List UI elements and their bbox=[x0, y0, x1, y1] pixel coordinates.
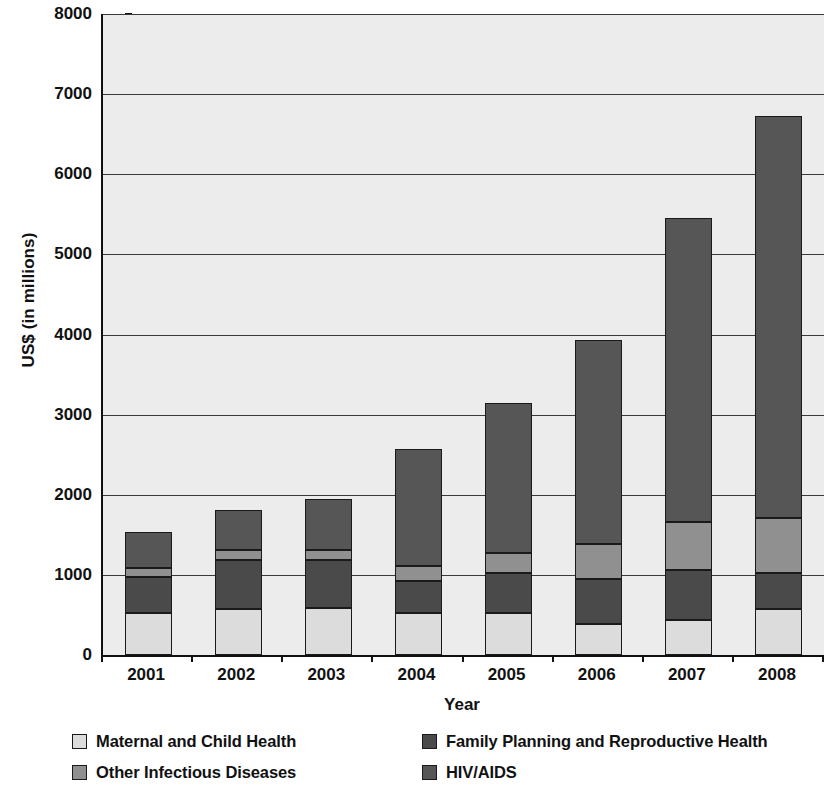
bar-group[interactable] bbox=[305, 14, 352, 655]
legend-entry[interactable]: Other Infectious Diseases bbox=[72, 763, 422, 782]
bar-group[interactable] bbox=[215, 14, 262, 655]
x-axis-tick-label: 2003 bbox=[281, 665, 371, 685]
bar-segment[interactable] bbox=[125, 532, 172, 567]
bar-segment[interactable] bbox=[125, 613, 172, 655]
y-axis-tick-label: 2000 bbox=[30, 485, 92, 505]
y-axis-tick-label: 4000 bbox=[30, 325, 92, 345]
bar-segment[interactable] bbox=[395, 613, 442, 655]
y-axis-tick-label: 6000 bbox=[30, 164, 92, 184]
chart-legend: Maternal and Child HealthFamily Planning… bbox=[72, 726, 812, 788]
legend-label: Family Planning and Reproductive Health bbox=[446, 732, 768, 751]
y-axis-tick-label: 7000 bbox=[30, 84, 92, 104]
bar-segment[interactable] bbox=[395, 566, 442, 581]
bar-segment[interactable] bbox=[305, 608, 352, 655]
y-axis-tick-label: 8000 bbox=[30, 4, 92, 24]
legend-entry[interactable]: Maternal and Child Health bbox=[72, 732, 422, 751]
bar-segment[interactable] bbox=[575, 624, 622, 655]
x-axis-tick-mark bbox=[732, 655, 734, 662]
bar-segment[interactable] bbox=[305, 550, 352, 560]
x-axis-tick-mark bbox=[552, 655, 554, 662]
bar-segment[interactable] bbox=[485, 403, 532, 554]
x-axis-tick-mark bbox=[371, 655, 373, 662]
legend-swatch-icon bbox=[72, 765, 87, 780]
x-axis-tick-mark bbox=[101, 655, 103, 662]
bar-segment[interactable] bbox=[665, 620, 712, 655]
x-axis-tick-label: 2007 bbox=[642, 665, 732, 685]
bar-segment[interactable] bbox=[215, 560, 262, 609]
x-axis-tick-label: 2001 bbox=[101, 665, 191, 685]
bar-segment[interactable] bbox=[755, 518, 802, 573]
bar-segment[interactable] bbox=[395, 449, 442, 566]
x-axis-tick-mark bbox=[822, 655, 824, 662]
bar-group[interactable] bbox=[395, 14, 442, 655]
x-axis-tick-label: 2005 bbox=[462, 665, 552, 685]
bar-group[interactable] bbox=[665, 14, 712, 655]
y-axis-tick-label: 1000 bbox=[30, 565, 92, 585]
legend-swatch-icon bbox=[422, 765, 437, 780]
x-axis-tick-label: 2006 bbox=[552, 665, 642, 685]
bar-segment[interactable] bbox=[575, 544, 622, 578]
bar-segment[interactable] bbox=[215, 609, 262, 655]
x-axis-tick-label: 2004 bbox=[371, 665, 461, 685]
bar-segment[interactable] bbox=[575, 579, 622, 624]
bar-segment[interactable] bbox=[125, 568, 172, 578]
bar-segment[interactable] bbox=[125, 577, 172, 613]
y-axis-tick-label: 0 bbox=[30, 645, 92, 665]
legend-label: Maternal and Child Health bbox=[96, 732, 296, 751]
bar-segment[interactable] bbox=[665, 522, 712, 570]
bar-segment[interactable] bbox=[755, 116, 802, 518]
legend-swatch-icon bbox=[422, 734, 437, 749]
x-axis-tick-marks bbox=[101, 655, 823, 663]
legend-entry[interactable]: HIV/AIDS bbox=[422, 763, 812, 782]
x-axis-tick-labels: 20012002200320042005200620072008 bbox=[101, 665, 823, 691]
bar-group[interactable] bbox=[485, 14, 532, 655]
plot-area bbox=[101, 14, 824, 657]
bar-group[interactable] bbox=[575, 14, 622, 655]
bar-segment[interactable] bbox=[485, 553, 532, 573]
bar-group[interactable] bbox=[125, 14, 172, 655]
legend-swatch-icon bbox=[72, 734, 87, 749]
bar-segment[interactable] bbox=[305, 560, 352, 607]
bar-segment[interactable] bbox=[755, 573, 802, 609]
bar-segment[interactable] bbox=[485, 613, 532, 655]
legend-entry[interactable]: Family Planning and Reproductive Health bbox=[422, 732, 812, 751]
bar-segment[interactable] bbox=[575, 340, 622, 544]
y-axis-tick-labels: 010002000300040005000600070008000 bbox=[30, 0, 92, 670]
bar-segment[interactable] bbox=[755, 609, 802, 655]
x-axis-title: Year bbox=[101, 695, 823, 715]
y-axis-tick-label: 3000 bbox=[30, 405, 92, 425]
y-axis-tick-label: 5000 bbox=[30, 244, 92, 264]
bar-group[interactable] bbox=[755, 14, 802, 655]
bar-segment[interactable] bbox=[665, 570, 712, 620]
bar-segment[interactable] bbox=[485, 573, 532, 613]
x-axis-tick-mark bbox=[281, 655, 283, 662]
legend-label: HIV/AIDS bbox=[446, 763, 517, 782]
x-axis-tick-label: 2008 bbox=[732, 665, 822, 685]
bar-segment[interactable] bbox=[215, 510, 262, 550]
stacked-bar-chart: US$ (in millions) 0100020003000400050006… bbox=[0, 0, 835, 796]
x-axis-tick-label: 2002 bbox=[191, 665, 281, 685]
bar-segment[interactable] bbox=[305, 499, 352, 550]
x-axis-tick-mark bbox=[191, 655, 193, 662]
bar-segment[interactable] bbox=[395, 581, 442, 613]
bar-segment[interactable] bbox=[215, 550, 262, 560]
x-axis-tick-mark bbox=[462, 655, 464, 662]
bar-segment[interactable] bbox=[665, 218, 712, 522]
bars-layer bbox=[103, 14, 824, 655]
x-axis-tick-mark bbox=[642, 655, 644, 662]
legend-label: Other Infectious Diseases bbox=[96, 763, 296, 782]
